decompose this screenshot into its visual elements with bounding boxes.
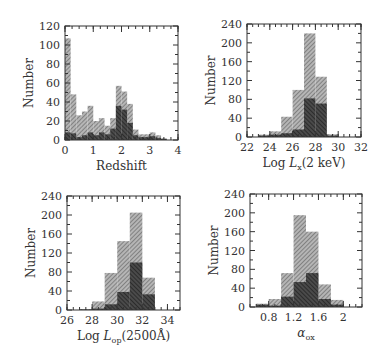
x-axis-label: Log Lx(2 keV): [262, 156, 345, 172]
y-tick-label: 160: [41, 228, 62, 241]
x-tick-label: 1: [90, 144, 97, 157]
y-tick-label: 80: [231, 263, 245, 276]
x-tick-label: 1.6: [310, 311, 328, 324]
histogram-panel-alpha-ox: 040801201602002400.81.21.62Numberαox: [207, 188, 362, 342]
x-tick-label: 24: [263, 141, 277, 154]
y-tick-label: 160: [221, 56, 242, 69]
figure: 02040608010012001234NumberRedshift040801…: [0, 0, 387, 361]
histogram-bar: [122, 110, 128, 140]
y-axis-label: Number: [204, 55, 218, 105]
histogram-bar: [116, 106, 122, 140]
histogram-bar: [130, 263, 143, 311]
y-tick-label: 120: [41, 247, 62, 260]
y-tick-label: 80: [46, 58, 60, 71]
histogram-bar: [294, 282, 306, 307]
x-axis-label: Redshift: [96, 159, 147, 173]
histogram-panel-redshift: 02040608010012001234NumberRedshift: [22, 20, 182, 173]
y-tick-label: 200: [221, 37, 242, 50]
x-tick-label: 0.8: [260, 311, 278, 324]
histogram-bar: [71, 94, 77, 140]
y-tick-label: 40: [48, 285, 62, 298]
x-tick-label: 34: [160, 314, 174, 327]
y-tick-label: 240: [41, 190, 62, 203]
histogram-bar: [127, 123, 133, 140]
histogram-panel-log-lop: 040801201602002402628303234NumberLog Lop…: [24, 190, 180, 345]
x-tick-label: 2: [118, 144, 125, 157]
y-tick-label: 80: [228, 93, 242, 106]
y-tick-label: 40: [231, 282, 245, 295]
y-tick-label: 160: [224, 226, 245, 239]
x-tick-label: 22: [240, 141, 254, 154]
y-tick-label: 0: [238, 301, 245, 314]
y-axis-label: Number: [22, 58, 36, 108]
x-tick-label: 26: [60, 314, 74, 327]
histogram-bar: [150, 136, 156, 140]
x-tick-label: 30: [331, 141, 345, 154]
y-tick-label: 80: [48, 266, 62, 279]
histogram-bar: [88, 132, 94, 140]
x-tick-label: 1.2: [285, 311, 303, 324]
y-tick-label: 100: [39, 39, 60, 52]
y-tick-label: 240: [224, 188, 245, 201]
y-tick-label: 120: [221, 75, 242, 88]
histogram-bar: [93, 135, 99, 140]
histogram-bar: [65, 38, 71, 140]
histogram-bar: [65, 132, 71, 140]
x-tick-label: 26: [286, 141, 300, 154]
y-axis-label: Number: [24, 228, 38, 278]
y-tick-label: 200: [41, 209, 62, 222]
histogram-bar: [76, 115, 82, 140]
y-tick-label: 120: [224, 245, 245, 258]
x-tick-label: 3: [146, 144, 153, 157]
y-tick-label: 40: [228, 112, 242, 125]
histogram-bar: [82, 135, 88, 140]
y-tick-label: 200: [224, 207, 245, 220]
x-tick-label: 4: [175, 144, 182, 157]
y-tick-label: 240: [221, 18, 242, 31]
histogram-bar: [315, 104, 326, 137]
y-tick-label: 60: [46, 77, 60, 90]
y-tick-label: 120: [39, 20, 60, 33]
x-axis-label: αox: [297, 326, 315, 342]
x-tick-label: 2: [340, 311, 347, 324]
y-tick-label: 0: [53, 134, 60, 147]
histogram-bar: [306, 273, 318, 307]
x-tick-label: 28: [85, 314, 99, 327]
histogram-bar: [99, 132, 105, 140]
x-tick-label: 32: [135, 314, 149, 327]
x-tick-label: 0: [62, 144, 69, 157]
histogram-panel-log-lx: 04080120160200240222426283032NumberLog L…: [204, 18, 368, 172]
x-tick-label: 28: [308, 141, 322, 154]
histogram-bar: [71, 133, 77, 140]
x-tick-label: 32: [354, 141, 368, 154]
histogram-bar: [110, 129, 116, 140]
y-tick-label: 40: [46, 96, 60, 109]
histogram-bar: [304, 98, 315, 137]
y-tick-label: 20: [46, 115, 60, 128]
x-tick-label: 30: [110, 314, 124, 327]
y-axis-label: Number: [207, 225, 221, 275]
x-axis-label: Log Lop(2500Å): [77, 328, 170, 345]
